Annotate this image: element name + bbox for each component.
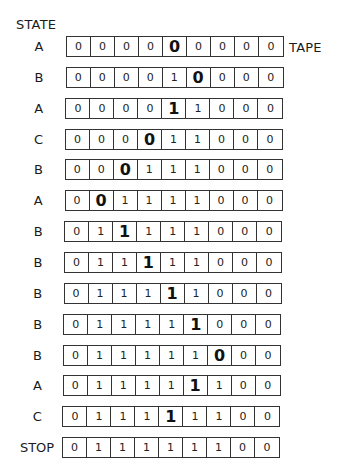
tape-head-cell: 1 — [161, 284, 185, 303]
tape-cell: 1 — [136, 376, 160, 395]
tape-cell: 1 — [160, 376, 184, 395]
tape-cell: 1 — [162, 160, 186, 179]
tape-cell: 0 — [187, 37, 211, 56]
tape-cell: 1 — [135, 407, 159, 426]
tape-cell: 1 — [183, 438, 207, 457]
tape-cell: 0 — [234, 130, 258, 149]
state-label: STOP — [12, 437, 62, 458]
tape-cell: 1 — [87, 407, 111, 426]
tape-cell: 1 — [113, 284, 137, 303]
tape-cell: 0 — [65, 284, 89, 303]
tape: 0 0 0 0 1 1 0 0 0 — [65, 98, 283, 119]
tape-cell: 1 — [112, 315, 136, 334]
tape-cell: 1 — [186, 160, 210, 179]
tape-cell: 0 — [258, 191, 282, 210]
tape-cell: 0 — [233, 222, 257, 241]
tape: 0 0 0 0 1 0 0 0 0 — [66, 67, 284, 88]
tape-cell: 0 — [258, 130, 282, 149]
tape-cell: 0 — [67, 68, 91, 87]
tape-cell: 1 — [160, 315, 184, 334]
tape: 0 0 0 0 1 1 0 0 0 — [65, 129, 283, 150]
tape-cell: 0 — [210, 99, 234, 118]
tape-cell: 0 — [66, 191, 90, 210]
state-label: B — [13, 221, 63, 242]
tape-cell: 0 — [257, 253, 281, 272]
tape-cell: 1 — [89, 222, 113, 241]
tape-cell: 0 — [139, 37, 163, 56]
tape-cell: 1 — [114, 191, 138, 210]
tape-cell: 1 — [113, 253, 137, 272]
tape-cell: 0 — [210, 130, 234, 149]
tape-cell: 0 — [138, 99, 162, 118]
tape-cell: 0 — [65, 253, 89, 272]
tape-cell: 0 — [231, 407, 255, 426]
state-label: A — [14, 36, 64, 57]
tape-cell: 0 — [90, 130, 114, 149]
tape-cell: 1 — [161, 253, 185, 272]
state-label: B — [14, 67, 64, 88]
tape-cell: 0 — [234, 160, 258, 179]
tape-cell: 0 — [258, 99, 282, 118]
tape-cell: 0 — [257, 222, 281, 241]
tape-cell: 0 — [235, 68, 259, 87]
tape-cell: 1 — [88, 376, 112, 395]
tape-cell: 0 — [91, 37, 115, 56]
tape-cell: 0 — [257, 284, 281, 303]
tape-cell: 1 — [162, 130, 186, 149]
state-label: C — [14, 129, 64, 150]
tape-cell: 0 — [232, 315, 256, 334]
tape-cell: 0 — [139, 68, 163, 87]
tape-cell: 0 — [231, 438, 255, 457]
tape-cell: 0 — [256, 346, 280, 365]
state-label: A — [12, 375, 62, 396]
tape-cell: 1 — [87, 438, 111, 457]
tape: 0 1 1 1 1 1 0 0 0 — [64, 283, 282, 304]
tape-cell: 1 — [186, 191, 210, 210]
tape-cell: 1 — [207, 438, 231, 457]
tape-cell: 0 — [114, 130, 138, 149]
tape-cell: 1 — [135, 438, 159, 457]
tape-cell: 1 — [88, 315, 112, 334]
tape-cell: 0 — [211, 68, 235, 87]
tape-cell: 1 — [89, 253, 113, 272]
tape: 0 1 1 1 1 1 0 0 0 — [63, 345, 281, 366]
tape-cell: 1 — [186, 99, 210, 118]
tape: 0 0 0 0 0 0 0 0 0 — [66, 36, 284, 57]
tape-cell: 0 — [232, 376, 256, 395]
tape-cell: 1 — [185, 284, 209, 303]
tape-cell: 0 — [90, 160, 114, 179]
state-label: C — [12, 406, 62, 427]
tape-cell: 1 — [89, 284, 113, 303]
tape: 0 1 1 1 1 1 1 0 0 — [63, 375, 281, 396]
tape-cell: 0 — [235, 37, 259, 56]
tape: 0 0 1 1 1 1 0 0 0 — [65, 190, 283, 211]
tape: 0 1 1 1 1 1 0 0 0 — [64, 221, 282, 242]
tape-cell: 0 — [209, 253, 233, 272]
tape-cell: 0 — [258, 160, 282, 179]
tape-cell: 0 — [115, 68, 139, 87]
tape-cell: 1 — [185, 253, 209, 272]
tape-head-cell: 1 — [162, 99, 186, 118]
tape-head-cell: 0 — [90, 191, 114, 210]
tape-cell: 0 — [211, 37, 235, 56]
tape-head-cell: 1 — [137, 253, 161, 272]
tape-cell: 0 — [64, 315, 88, 334]
tape-cell: 0 — [209, 284, 233, 303]
tape-cell: 1 — [88, 346, 112, 365]
tape-cell: 1 — [186, 130, 210, 149]
tape-cell: 0 — [259, 68, 283, 87]
tape-cell: 1 — [137, 222, 161, 241]
tape-cell: 0 — [63, 438, 87, 457]
tape-head-cell: 0 — [138, 130, 162, 149]
tape-cell: 0 — [210, 160, 234, 179]
state-label: B — [13, 159, 63, 180]
tape-cell: 1 — [207, 407, 231, 426]
tape-cell: 0 — [209, 222, 233, 241]
tape-cell: 0 — [255, 438, 279, 457]
tape-head-cell: 0 — [208, 346, 232, 365]
tape: 0 0 0 1 1 1 0 0 0 — [65, 159, 283, 180]
state-label: B — [13, 345, 63, 366]
tape-cell: 0 — [210, 191, 234, 210]
tape-cell: 0 — [67, 37, 91, 56]
tape-cell: 0 — [91, 68, 115, 87]
